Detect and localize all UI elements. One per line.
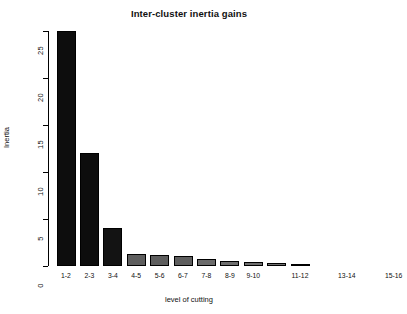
y-axis-tick-label: 20 <box>36 78 45 118</box>
x-axis-tick-label: 9-10 <box>237 272 269 279</box>
y-axis-tick-label: 10 <box>36 172 45 212</box>
bar <box>127 254 146 266</box>
y-axis-label: Inertia <box>2 127 11 148</box>
bar <box>197 259 216 266</box>
bar <box>220 261 239 266</box>
y-axis-tick-label: 25 <box>36 31 45 71</box>
bar <box>57 31 76 266</box>
x-axis-tick-label: 11-12 <box>284 272 316 279</box>
x-axis-tick-label: 15-16 <box>378 272 407 279</box>
y-axis-line <box>48 31 49 266</box>
y-axis-tick-label: 15 <box>36 125 45 165</box>
bar <box>103 228 122 266</box>
y-axis-tick-label: 5 <box>36 219 45 259</box>
bar <box>267 263 286 266</box>
chart-title: Inter-cluster inertia gains <box>0 8 378 19</box>
bar <box>291 264 310 266</box>
bar <box>174 256 193 266</box>
bar <box>244 262 263 266</box>
x-axis-label: level of cutting <box>0 295 378 304</box>
bar <box>80 153 99 266</box>
x-axis-tick-label: 13-14 <box>331 272 363 279</box>
bar <box>150 255 169 266</box>
